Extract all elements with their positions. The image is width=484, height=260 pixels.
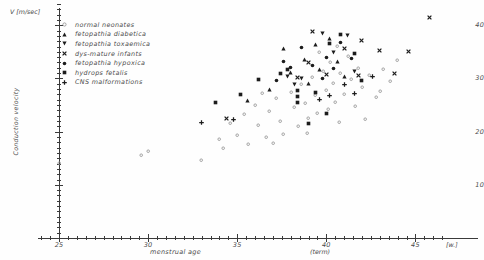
cross-x-icon (62, 51, 75, 56)
data-point-filled-circle (281, 59, 286, 64)
y-tick-minor (57, 4, 61, 5)
data-point-open-circle (331, 81, 335, 85)
x-tick-minor (130, 236, 131, 240)
data-point-plus (352, 91, 357, 96)
data-point-filled-circle (349, 56, 354, 61)
x-tick-minor (255, 236, 256, 240)
data-point-filled-square (256, 77, 261, 82)
x-tick-minor (282, 236, 283, 240)
data-point-open-circle (315, 111, 319, 115)
x-tick-minor (184, 236, 185, 240)
x-axis-unit-label: [w.] (446, 241, 458, 248)
x-tick-minor (407, 236, 408, 240)
y-tick-minor (57, 68, 61, 69)
plus-icon (62, 80, 75, 85)
y-tick-minor (57, 15, 61, 16)
data-point-triangle-up (335, 59, 340, 64)
data-point-open-circle (349, 77, 353, 81)
data-point-open-circle (360, 85, 364, 89)
data-point-open-circle (146, 149, 150, 153)
x-tick-minor (219, 236, 220, 240)
data-point-open-circle (306, 116, 310, 120)
x-tick-minor (50, 236, 51, 240)
data-point-cross-x (406, 49, 411, 54)
x-tick-label: 35 (224, 241, 250, 249)
data-point-open-circle (328, 60, 332, 64)
data-point-open-circle (337, 120, 341, 124)
x-tick-minor (309, 236, 310, 240)
data-point-plus (327, 93, 332, 98)
data-point-open-circle (310, 75, 314, 79)
y-tick-major (55, 185, 63, 186)
y-tick-minor (57, 57, 61, 58)
data-point-cross-x (377, 48, 382, 53)
triangle-down-icon (62, 41, 75, 46)
data-point-filled-circle (331, 66, 336, 71)
x-tick-minor (264, 236, 265, 240)
scatter-plot-figure: V [m/sec] Conduction velocity 10203040 2… (0, 0, 484, 260)
data-point-triangle-up (281, 46, 286, 51)
legend-item-label: fetopathia diabetica (75, 30, 146, 38)
x-tick-minor (344, 236, 345, 240)
data-point-filled-circle (338, 40, 343, 45)
x-tick-minor (291, 236, 292, 240)
data-point-open-circle (221, 146, 225, 150)
data-point-triangle-up (267, 87, 272, 92)
data-point-open-circle (246, 142, 250, 146)
data-point-filled-square (313, 90, 318, 95)
x-tick-minor (353, 236, 354, 240)
y-tick-minor (57, 153, 61, 154)
x-tick-minor (175, 236, 176, 240)
data-point-open-circle (267, 109, 271, 113)
data-point-open-circle (242, 112, 246, 116)
legend-item-open-circle: normal neonates (62, 20, 150, 30)
y-tick-minor (57, 105, 61, 106)
legend-item-label: normal neonates (75, 21, 134, 29)
data-point-cross-x (295, 75, 300, 80)
data-point-open-circle (342, 92, 346, 96)
x-tick-minor (228, 236, 229, 240)
data-point-filled-square (278, 71, 283, 76)
data-point-open-circle (289, 90, 293, 94)
data-point-open-circle (274, 96, 278, 100)
x-tick-minor (273, 236, 274, 240)
legend-item-label: hydrops fetalis (75, 69, 128, 77)
y-tick-minor (57, 169, 61, 170)
y-tick-minor (57, 148, 61, 149)
legend-item-label: dys-mature infants (75, 50, 142, 58)
data-point-triangle-up (327, 36, 332, 41)
legend-item-label: fetopathia hypoxica (75, 59, 145, 67)
data-point-filled-square (238, 92, 243, 97)
x-tick-minor (68, 236, 69, 240)
data-point-filled-square (338, 32, 343, 37)
x-tick-minor (77, 236, 78, 240)
legend-item-label: fetopathia toxaemica (75, 40, 150, 48)
data-point-cross-x (342, 46, 347, 51)
data-point-open-circle (395, 58, 399, 62)
data-point-plus (370, 74, 375, 79)
y-tick-minor (57, 94, 61, 95)
data-point-open-circle (139, 153, 143, 157)
x-tick-minor (193, 236, 194, 240)
data-point-open-circle (292, 105, 296, 109)
data-point-triangle-up (317, 67, 322, 72)
y-tick-label: 10 (434, 181, 484, 189)
legend-item-plus: CNS malformations (62, 78, 150, 88)
x-tick-minor (335, 236, 336, 240)
data-point-open-circle (264, 135, 268, 139)
data-point-cross-x (392, 71, 397, 76)
filled-circle-icon (62, 61, 75, 66)
y-tick-minor (57, 227, 61, 228)
data-point-open-circle (381, 67, 385, 71)
x-tick-minor (246, 236, 247, 240)
data-point-open-circle (199, 158, 203, 162)
y-tick-minor (57, 47, 61, 48)
x-tick-minor (371, 236, 372, 240)
data-point-plus (231, 117, 236, 122)
legend-item-triangle-up: fetopathia diabetica (62, 30, 150, 40)
data-point-open-circle (271, 141, 275, 145)
data-point-open-circle (303, 101, 307, 105)
data-point-cross-x (427, 15, 432, 20)
data-point-filled-circle (310, 63, 315, 68)
data-point-triangle-down (320, 31, 325, 36)
